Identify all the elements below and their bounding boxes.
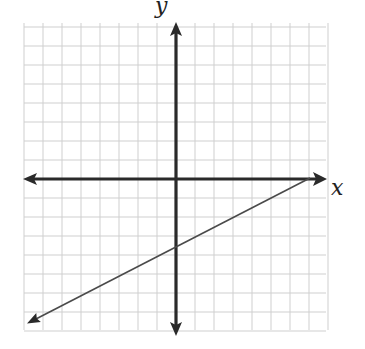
x-axis-label: x bbox=[331, 177, 343, 199]
axes bbox=[23, 22, 327, 336]
plotted-line bbox=[27, 178, 310, 324]
y-axis-label: y bbox=[155, 0, 167, 17]
coordinate-plane bbox=[0, 0, 365, 349]
plotted-line-segment bbox=[33, 178, 310, 321]
